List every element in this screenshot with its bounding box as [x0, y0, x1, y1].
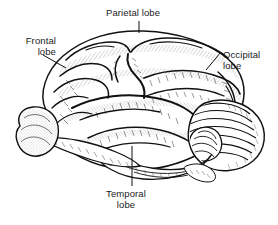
label-frontal-lobe: Frontal lobe: [4, 35, 56, 57]
label-parietal-line1: Parietal lobe: [106, 7, 160, 18]
label-occipital-line2: lobe: [223, 60, 277, 71]
label-temporal-lobe: Temporal lobe: [95, 188, 157, 210]
label-occipital-line1: Occipital: [223, 49, 277, 60]
label-frontal-line2: lobe: [4, 46, 56, 57]
label-temporal-line1: Temporal: [95, 188, 157, 199]
cerebellum-group: [188, 100, 264, 171]
label-occipital-lobe: Occipital lobe: [223, 49, 277, 71]
brain-anatomy-figure: Parietal lobe Frontal lobe Occipital lob…: [0, 0, 278, 225]
label-temporal-line2: lobe: [95, 199, 157, 210]
label-frontal-line1: Frontal: [4, 35, 56, 46]
label-parietal-lobe: Parietal lobe: [106, 7, 160, 18]
